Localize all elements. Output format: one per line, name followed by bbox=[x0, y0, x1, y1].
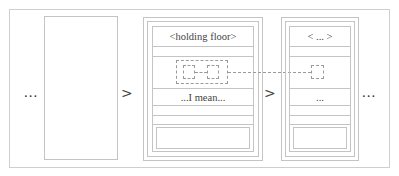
dotted-node-target bbox=[311, 65, 324, 79]
arrow-right-1: > bbox=[121, 86, 133, 100]
middle-row-empty-3 bbox=[153, 116, 253, 125]
left-ellipsis: ... bbox=[24, 85, 38, 100]
middle-header-row: <holding floor> bbox=[153, 27, 253, 47]
right-panel-inner: < ... > ... bbox=[289, 26, 351, 152]
arrow-right-2: > bbox=[264, 86, 276, 100]
middle-row-empty-1 bbox=[153, 47, 253, 57]
dotted-node-b bbox=[207, 65, 219, 79]
right-header-row: < ... > bbox=[290, 27, 350, 47]
right-ellipsis: ... bbox=[362, 85, 376, 100]
empty-panel bbox=[44, 16, 118, 160]
middle-bottom-box bbox=[156, 127, 250, 149]
right-row-empty-3 bbox=[290, 116, 350, 125]
dotted-node-a bbox=[183, 65, 195, 79]
middle-content-label: ...I mean... bbox=[181, 92, 226, 103]
right-row-empty-2 bbox=[290, 106, 350, 116]
middle-content-row: ...I mean... bbox=[153, 89, 253, 106]
right-row-empty-1 bbox=[290, 47, 350, 57]
middle-panel-inner: <holding floor> ...I mean... bbox=[152, 26, 254, 152]
middle-row-empty-2 bbox=[153, 106, 253, 116]
right-bottom-box bbox=[293, 127, 347, 149]
right-content-row: ... bbox=[290, 89, 350, 106]
dotted-link-inner bbox=[195, 72, 207, 73]
middle-header-label: <holding floor> bbox=[170, 31, 237, 42]
right-header-label: < ... > bbox=[308, 31, 333, 42]
right-content-label: ... bbox=[316, 92, 324, 103]
